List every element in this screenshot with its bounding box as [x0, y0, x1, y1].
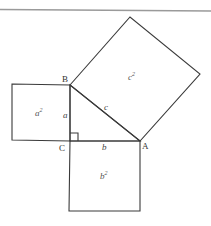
square-label-c: c2 — [128, 71, 135, 82]
square-c — [70, 17, 200, 141]
side-label-a: a — [63, 110, 68, 120]
right-triangle — [70, 85, 140, 141]
vertex-label-a: A — [142, 141, 149, 151]
vertex-label-c: C — [59, 143, 65, 153]
side-label-c: c — [104, 102, 108, 112]
side-label-b: b — [102, 142, 107, 152]
right-angle-marker — [70, 133, 78, 141]
square-label-b: b2 — [100, 170, 108, 181]
top-rule — [0, 10, 211, 12]
vertex-label-b: B — [62, 74, 68, 84]
square-label-a: a2 — [35, 107, 43, 118]
pythagorean-diagram: B C A a b c a2 b2 c2 — [0, 0, 211, 226]
